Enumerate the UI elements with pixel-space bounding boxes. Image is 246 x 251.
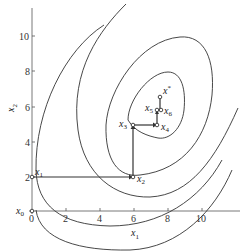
contour-4 [36, 25, 222, 226]
iterate-points [30, 95, 163, 213]
y-tick-label: 4 [25, 137, 30, 148]
label-x0: x0 [15, 205, 24, 218]
point-x4 [155, 123, 159, 127]
point-xstar [158, 95, 162, 99]
point-x3 [131, 123, 135, 127]
point-x2 [131, 175, 135, 179]
contour-2 [106, 37, 213, 175]
y-ticks: 2 4 6 8 10 [19, 31, 35, 183]
y-tick-label: 6 [25, 102, 30, 113]
contour-3 [77, 4, 238, 197]
y-tick-label: 10 [19, 31, 29, 42]
point-x0 [30, 209, 34, 213]
point-x1 [30, 175, 34, 179]
x-tick-label: 0 [29, 213, 34, 224]
y-tick-label: 2 [25, 172, 30, 183]
x-tick-label: 10 [196, 213, 206, 224]
x-tick-label: 4 [97, 213, 102, 224]
x-axis-label: x1 [130, 227, 139, 241]
label-x6: x6 [163, 105, 172, 118]
y-axis-label: x2 [5, 104, 19, 113]
y-tick-label: 8 [25, 66, 30, 77]
x-ticks: 0 2 4 6 8 10 [29, 208, 206, 224]
label-x5: x5 [144, 102, 153, 115]
x-tick-label: 6 [131, 213, 136, 224]
label-x3: x3 [118, 118, 127, 131]
contour-1 [128, 72, 184, 138]
label-xstar: x* [162, 84, 171, 96]
contour-diagram: 2 4 6 8 10 0 2 4 6 8 10 x1 x2 [0, 0, 246, 251]
point-x6 [159, 108, 163, 112]
label-x2: x2 [136, 173, 145, 186]
search-path [32, 98, 160, 180]
label-x4: x4 [160, 121, 169, 134]
point-x5 [155, 108, 159, 112]
x-tick-label: 8 [165, 213, 170, 224]
